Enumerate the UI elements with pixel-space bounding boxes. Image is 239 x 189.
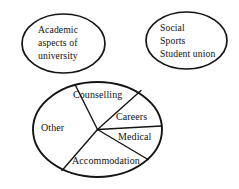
pie-divider-careers-medical bbox=[98, 126, 162, 130]
diagram-canvas: Academic aspects of university Social Sp… bbox=[0, 0, 239, 189]
group-label-social-line-1: Social bbox=[160, 21, 215, 34]
group-label-academic-line-3: university bbox=[38, 49, 78, 62]
pie-slice-label-counselling: Counselling bbox=[73, 89, 122, 102]
group-label-social: Social Sports Student union bbox=[160, 21, 215, 61]
group-label-social-line-2: Sports bbox=[160, 34, 215, 47]
group-label-social-line-3: Student union bbox=[160, 47, 215, 60]
group-label-academic-line-2: aspects of bbox=[38, 36, 78, 49]
pie-slice-label-medical: Medical bbox=[118, 131, 151, 144]
pie-slice-label-other: Other bbox=[41, 122, 64, 135]
pie-slice-label-accommodation: Accommodation bbox=[72, 155, 140, 168]
group-label-academic-line-1: Academic bbox=[38, 23, 78, 36]
pie-slice-label-careers: Careers bbox=[116, 111, 147, 124]
group-label-academic: Academic aspects of university bbox=[38, 23, 78, 63]
